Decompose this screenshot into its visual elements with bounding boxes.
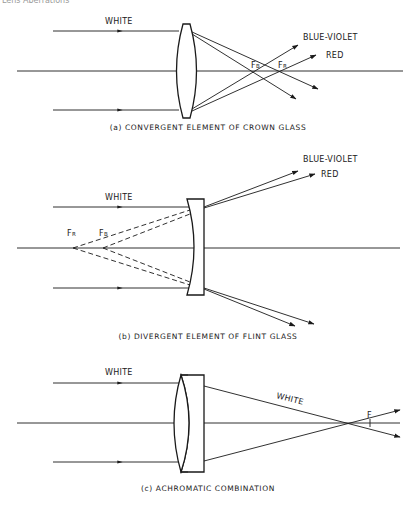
panel-b-divergent: BLUE-VIOLET RED WHITE FR FB (b) DIVERGEN… xyxy=(17,155,400,341)
panel-c-caption: (c) ACHROMATIC COMBINATION xyxy=(141,484,275,493)
panel-a-ray-bottom-blue xyxy=(192,45,298,109)
lens-aberration-diagram: Lens Aberrations WHITE BLUE-VIOLET RED F… xyxy=(0,0,416,508)
panel-c-achromatic: WHITE WHITE F (c) ACHROMATIC COMBINATION xyxy=(17,368,400,493)
panel-b-ray-bottom-blue xyxy=(204,289,295,326)
panel-b-ray-top-red xyxy=(204,174,315,208)
panel-b-virtual-ray-blue-top xyxy=(103,214,190,248)
panel-c-focus-label: F xyxy=(367,411,372,420)
panel-b-ray-top-blue xyxy=(204,171,298,207)
panel-a-focus-blue: FB xyxy=(251,61,260,70)
panel-b-virtual-ray-red-bottom xyxy=(73,248,190,285)
panel-b-white-label: WHITE xyxy=(105,193,133,202)
panel-b-caption: (b) DIVERGENT ELEMENT OF FLINT GLASS xyxy=(119,332,298,341)
panel-b-flint-lens xyxy=(187,199,204,295)
panel-a-red-label: RED xyxy=(326,51,344,60)
panel-c-white-label: WHITE xyxy=(105,368,133,377)
panel-a-focus-red: FR xyxy=(278,61,287,70)
panel-a-white-label: WHITE xyxy=(105,17,133,26)
panel-b-virtual-ray-blue-bottom xyxy=(103,248,190,282)
panel-b-virtual-ray-red-top xyxy=(73,210,190,248)
panel-c-white-out-label: WHITE xyxy=(276,391,305,406)
panel-b-red-label: RED xyxy=(321,170,339,179)
panel-b-focus-red: FR xyxy=(67,229,76,238)
panel-a-blue-violet-label: BLUE-VIOLET xyxy=(303,33,358,42)
panel-b-blue-violet-label: BLUE-VIOLET xyxy=(303,155,358,164)
page-header: Lens Aberrations xyxy=(2,0,69,5)
panel-b-focus-blue: FB xyxy=(99,229,108,238)
panel-b-ray-bottom-red xyxy=(204,288,314,324)
panel-a-caption: (a) CONVERGENT ELEMENT OF CROWN GLASS xyxy=(110,123,307,132)
panel-a-crown-lens xyxy=(177,24,197,118)
panel-a-convergent: WHITE BLUE-VIOLET RED FB FR (a) CONVERGE… xyxy=(17,17,403,132)
